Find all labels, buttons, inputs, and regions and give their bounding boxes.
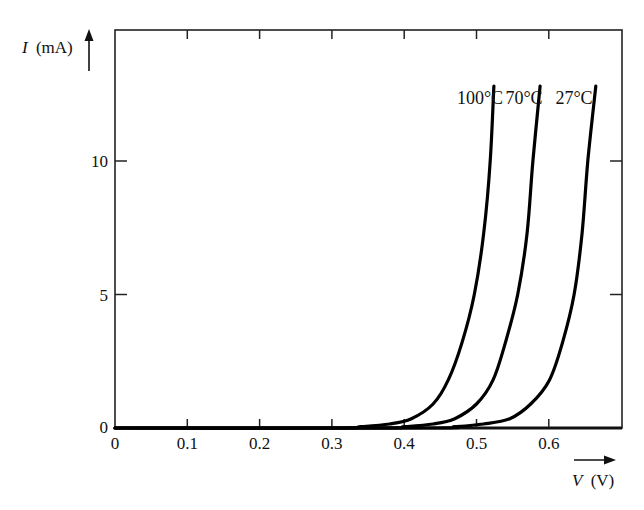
series-label: 27°C bbox=[555, 88, 592, 108]
x-tick-label: 0.2 bbox=[249, 434, 270, 453]
y-axis-symbol: I bbox=[21, 38, 29, 57]
x-tick-label: 0.4 bbox=[394, 434, 416, 453]
plot-frame bbox=[115, 30, 622, 428]
y-axis-unit: (mA) bbox=[36, 38, 73, 57]
y-tick-label: 0 bbox=[100, 418, 109, 437]
x-axis-symbol: V bbox=[572, 471, 585, 490]
series-label: 100°C bbox=[457, 88, 503, 108]
x-tick-label: 0.5 bbox=[466, 434, 487, 453]
y-axis-label: I (mA) bbox=[21, 29, 94, 71]
svg-text:I (mA): I (mA) bbox=[21, 38, 73, 57]
curves bbox=[115, 86, 596, 428]
y-tick-label: 5 bbox=[100, 286, 109, 305]
x-tick-label: 0.3 bbox=[321, 434, 342, 453]
x-tick-label: 0 bbox=[111, 434, 120, 453]
series-label: 70°C bbox=[505, 88, 542, 108]
x-tick-label: 0.1 bbox=[177, 434, 198, 453]
series-labels: 100°C70°C27°C bbox=[457, 88, 593, 108]
y-tick-label: 10 bbox=[91, 152, 108, 171]
iv-characteristic-chart: 00.10.20.30.40.50.6 0510 100°C70°C27°C I… bbox=[0, 0, 644, 510]
curve-70Cc bbox=[115, 86, 540, 428]
x-axis-unit: (V) bbox=[591, 471, 615, 490]
arrow-up-icon bbox=[85, 29, 94, 71]
y-axis-ticks: 0510 bbox=[91, 152, 622, 437]
x-tick-label: 0.6 bbox=[538, 434, 559, 453]
plot-border bbox=[115, 30, 622, 428]
x-axis-label: V (V) bbox=[572, 456, 616, 491]
svg-text:V (V): V (V) bbox=[572, 471, 614, 490]
arrow-right-icon bbox=[574, 456, 616, 465]
curve-100Cc bbox=[115, 86, 494, 428]
